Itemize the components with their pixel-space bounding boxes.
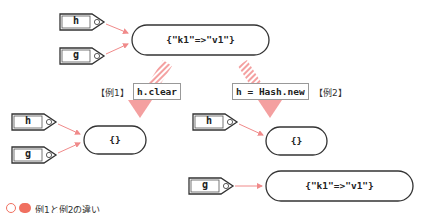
arrow-h-ex2: [239, 124, 263, 135]
transition-arrowhead-1: [128, 100, 152, 118]
tag-label-h-ex1: h: [14, 115, 42, 126]
arrow-g-ex1: [58, 143, 80, 153]
hash-value-ex2-h: {}: [266, 135, 327, 146]
tag-label-g-ex2: g: [191, 179, 219, 190]
figure-caption: 例1と例2の違い: [6, 203, 100, 213]
caption-text: 例1と例2の違い: [35, 205, 100, 213]
hash-value-ex1: {}: [84, 134, 146, 145]
example1-code: h.clear: [133, 83, 181, 100]
transition-arrowhead-2: [258, 100, 282, 118]
caption-bullet-icon: [6, 203, 16, 213]
caption-badge: [19, 203, 31, 213]
tag-label-h-ex2: h: [195, 115, 223, 126]
arrow-h-top: [106, 24, 128, 33]
tag-label-h-top: h: [62, 15, 90, 26]
hash-value-ex2-g: {"k1"=>"v1"}: [266, 180, 413, 191]
arrow-g-top: [106, 44, 128, 54]
hash-value-top: {"k1"=>"v1"}: [132, 34, 269, 45]
tag-label-g-ex1: g: [14, 148, 42, 159]
arrow-h-ex1: [58, 124, 80, 134]
example2-code: h = Hash.new: [232, 83, 309, 100]
example1-label: 【例1】: [96, 86, 129, 99]
example2-label: 【例2】: [314, 86, 347, 99]
tag-label-g-top: g: [62, 49, 90, 60]
